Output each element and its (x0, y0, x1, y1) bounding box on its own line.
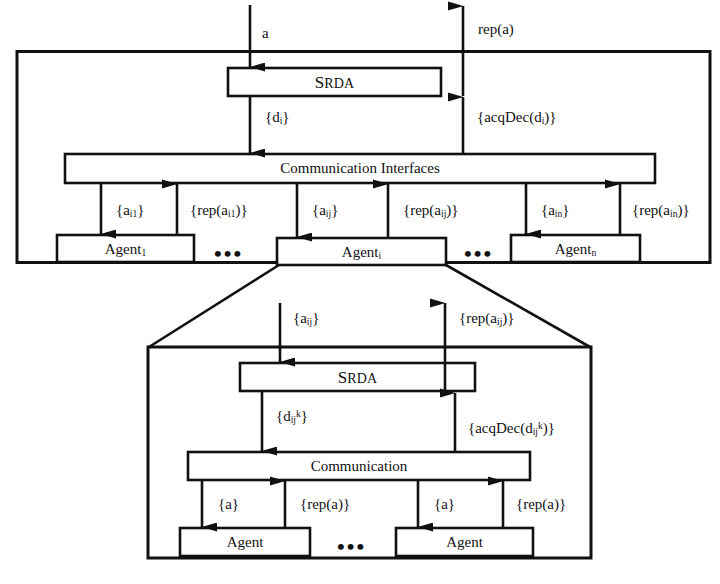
label-acqdec-di-close: )} (544, 109, 556, 125)
agent-i-sub: i (379, 251, 382, 261)
label-expanded-acqdec-open: {acqDec(d (468, 420, 533, 436)
zoom-connector-left (149, 265, 279, 347)
agent-i-name: Agent (342, 244, 379, 260)
label-expanded-decisions: {dijk} (276, 409, 308, 426)
label-a-i1: {ai1} (116, 203, 144, 220)
label-decisions-di-open: {d (265, 109, 280, 125)
label-expanded-decisions-close: } (301, 408, 308, 424)
diagram-canvas: a rep(a) SRDA {di} {acqDec(di)} Communic… (0, 0, 720, 584)
agent-1-sub: 1 (141, 248, 146, 258)
label-a-i1-open: {a (116, 202, 130, 218)
srda-expanded-first: S (338, 368, 347, 387)
agent-n-name: Agent (555, 241, 592, 257)
communication-interfaces-label: Communication Interfaces (65, 161, 655, 176)
label-decisions-di: {di} (265, 110, 290, 127)
label-acqdec-di-open: {acqDec(d (477, 109, 542, 125)
label-expanded-input-a-ij: {aij} (293, 311, 319, 328)
label-expanded-rep-left: {rep(a)} (300, 497, 350, 512)
srda-box-expanded-label: SRDA (240, 369, 475, 386)
ellipsis-expanded: ••• (337, 536, 366, 558)
agent-n-sub: n (591, 248, 596, 258)
ellipsis-top-right: ••• (464, 243, 493, 265)
label-expanded-a-right: {a} (434, 497, 455, 512)
label-expanded-a-left: {a} (218, 497, 239, 512)
expanded-agent-right-label: Agent (396, 535, 533, 550)
communication-box-label: Communication (188, 459, 530, 474)
label-rep-a-in-close: )} (677, 202, 689, 218)
label-input-a: a (262, 26, 269, 41)
label-a-ij-open: {a (312, 202, 326, 218)
label-a-i1-close: } (137, 202, 144, 218)
label-expanded-decisions-open: {d (276, 408, 291, 424)
label-rep-a-ij: {rep(aij)} (403, 203, 459, 220)
label-rep-a-in-open: {rep(a (632, 202, 670, 218)
srda-top-first: S (315, 73, 324, 92)
label-rep-a-i1-open: {rep(a (190, 202, 228, 218)
label-output-rep-a: rep(a) (478, 22, 514, 37)
srda-expanded-rest: RDA (347, 371, 377, 386)
ellipsis-top-left: ••• (214, 243, 243, 265)
agent-1-name: Agent (105, 241, 142, 257)
label-decisions-di-close: } (282, 109, 289, 125)
label-rep-a-i1: {rep(ai1)} (190, 203, 248, 220)
label-expanded-acqdec: {acqDec(dijk)} (468, 421, 555, 438)
label-expanded-output-open: {rep(a (459, 310, 497, 326)
srda-top-rest: RDA (324, 76, 354, 91)
label-rep-a-ij-open: {rep(a (403, 202, 441, 218)
label-a-ij: {aij} (312, 203, 338, 220)
label-a-in-close: } (562, 202, 569, 218)
zoom-connector-right (446, 265, 590, 347)
label-expanded-output-close: )} (502, 310, 514, 326)
expanded-agent-left-label: Agent (180, 535, 310, 550)
label-expanded-input-close: } (312, 310, 319, 326)
label-rep-a-i1-close: )} (235, 202, 247, 218)
label-expanded-acqdec-close: )} (543, 420, 555, 436)
label-expanded-input-open: {a (293, 310, 307, 326)
label-a-in-open: {a (541, 202, 555, 218)
label-a-in: {ain} (541, 203, 569, 220)
agent-box-i-label: Agenti (277, 245, 446, 262)
label-expanded-output-rep-a-ij: {rep(aij)} (459, 311, 515, 328)
label-expanded-rep-right: {rep(a)} (516, 497, 566, 512)
agent-box-1-label: Agent1 (57, 242, 194, 259)
label-rep-a-ij-close: )} (446, 202, 458, 218)
label-a-ij-close: } (331, 202, 338, 218)
label-acqdec-di: {acqDec(di)} (477, 110, 557, 127)
srda-box-top-label: SRDA (228, 74, 441, 91)
agent-box-n-label: Agentn (511, 242, 640, 259)
label-rep-a-in: {rep(ain)} (632, 203, 690, 220)
